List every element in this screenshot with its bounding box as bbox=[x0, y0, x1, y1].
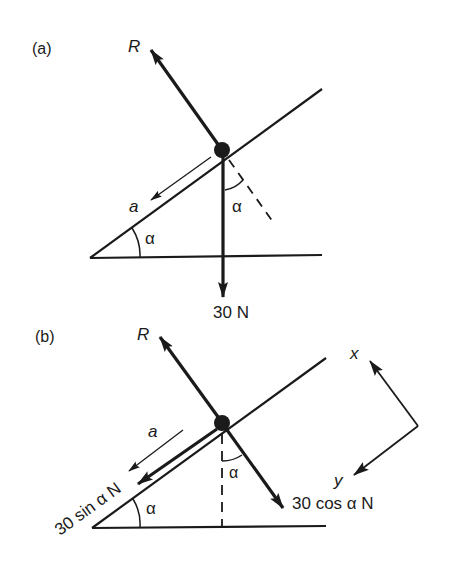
panel-b: (b) α α R 30 cos α N 30 sin α N a x bbox=[35, 325, 418, 539]
weight-angle-arc bbox=[225, 180, 243, 190]
panel-a-label: (a) bbox=[32, 40, 52, 57]
acceleration-label: a bbox=[129, 197, 138, 216]
rotated-axes: x y bbox=[333, 344, 418, 490]
ground-line bbox=[92, 526, 326, 528]
weight-angle-label: α bbox=[232, 197, 242, 216]
panel-a: (a) α R 30 N α a bbox=[32, 37, 322, 322]
y-axis-arrow bbox=[354, 426, 418, 475]
x-axis-arrow bbox=[370, 361, 418, 426]
incline-angle-arc bbox=[132, 228, 140, 257]
particle bbox=[214, 415, 230, 431]
reaction-force-arrow bbox=[160, 337, 221, 421]
ground-line bbox=[90, 255, 322, 258]
parallel-component-label: 30 sin α N bbox=[51, 479, 124, 540]
reaction-force-arrow bbox=[151, 50, 222, 150]
perpendicular-component-label: 30 cos α N bbox=[292, 494, 374, 513]
incline-angle-label: α bbox=[146, 499, 156, 518]
weight-force-label: 30 N bbox=[213, 303, 249, 322]
incline-line bbox=[92, 358, 326, 528]
particle bbox=[214, 142, 230, 158]
y-axis-label: y bbox=[333, 471, 344, 490]
acceleration-label: a bbox=[148, 422, 157, 441]
panel-b-label: (b) bbox=[35, 328, 55, 345]
incline-angle-arc bbox=[133, 499, 140, 527]
x-axis-label: x bbox=[349, 344, 359, 363]
reaction-force-label: R bbox=[128, 37, 140, 56]
weight-angle-arc bbox=[222, 455, 242, 461]
incline-line bbox=[90, 89, 322, 258]
acceleration-arrow bbox=[151, 157, 211, 200]
reaction-force-label: R bbox=[137, 325, 149, 344]
inclined-plane-force-diagram: (a) α R 30 N α a (b) α bbox=[0, 0, 452, 570]
incline-angle-label: α bbox=[145, 229, 155, 248]
weight-angle-label: α bbox=[229, 464, 238, 481]
